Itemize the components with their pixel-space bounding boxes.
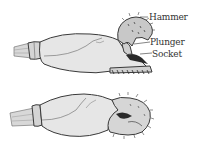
label-socket: Socket [152,49,182,59]
bottom-claw [10,92,154,139]
top-claw [14,12,155,74]
label-plunger: Plunger [150,37,185,47]
label-hammer: Hammer [149,12,188,22]
claw-illustration [0,0,197,150]
claw-diagram: Hammer Plunger Socket [0,0,197,150]
